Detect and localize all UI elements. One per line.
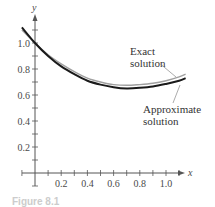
- approximate-solution-label: solution: [143, 115, 179, 127]
- exact-solution-leader: [158, 62, 176, 77]
- axes: [22, 14, 185, 186]
- x-tick-label: 0.6: [107, 178, 120, 189]
- y-tick-label: 0.6: [18, 90, 31, 101]
- x-tick-label: 0.4: [81, 178, 94, 189]
- figure-caption: Figure 8.1: [12, 196, 60, 207]
- x-tick-label: 1.0: [160, 178, 173, 189]
- labels: 0.20.40.60.81.00.20.40.60.81.0xyExactsol…: [12, 2, 201, 207]
- y-tick-label: 0.4: [18, 116, 31, 127]
- x-tick-label: 0.2: [55, 178, 68, 189]
- exact-solution-label: solution: [130, 57, 166, 69]
- y-tick-label: 0.8: [18, 64, 31, 75]
- y-axis-label: y: [31, 2, 37, 13]
- y-tick-label: 1.0: [18, 38, 31, 49]
- exact-solution-label: Exact: [130, 45, 155, 57]
- y-tick-label: 0.2: [18, 142, 31, 153]
- x-axis-label: x: [187, 167, 193, 178]
- y-axis-arrow-icon: [33, 14, 38, 21]
- approximate-solution-leader: [173, 85, 180, 103]
- chart-figure: 0.20.40.60.81.00.20.40.60.81.0xyExactsol…: [0, 0, 215, 207]
- x-tick-label: 0.8: [134, 178, 147, 189]
- approximate-solution-label: Approximate: [143, 103, 201, 115]
